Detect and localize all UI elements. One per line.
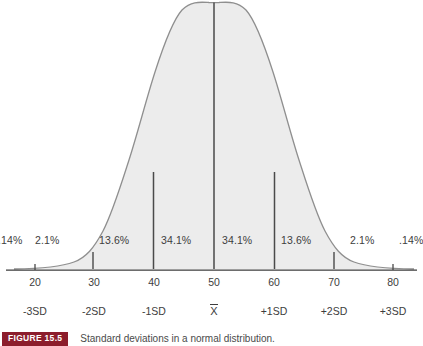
percent-label-minus3-minus2: 2.1% [35, 234, 59, 246]
x-tick-label-50: 50 [194, 276, 234, 288]
percent-label-plus1-plus2: 13.6% [281, 234, 311, 246]
x-tick-label-40: 40 [134, 276, 174, 288]
figure-caption-row: FIGURE 15.5 Standard deviations in a nor… [0, 332, 423, 343]
sd-tick-label-mean: X [191, 305, 237, 317]
percent-label-plus3-plus4: .14% [399, 234, 423, 246]
sd-tick-label-plus-2sd: +2SD [311, 305, 357, 317]
sd-tick-label-plus-1sd: +1SD [251, 305, 297, 317]
x-tick-label-80: 80 [373, 276, 413, 288]
overbar [210, 304, 217, 305]
x-tick-label-70: 70 [314, 276, 354, 288]
figure-number-badge: FIGURE 15.5 [2, 332, 68, 346]
x-tick-label-30: 30 [74, 276, 114, 288]
x-tick-label-60: 60 [254, 276, 294, 288]
percent-label-plus2-plus3: 2.1% [350, 234, 374, 246]
percent-label-mean-plus1: 34.1% [222, 234, 252, 246]
figure-caption-text: Standard deviations in a normal distribu… [80, 333, 275, 344]
x-tick-label-20: 20 [15, 276, 55, 288]
sd-tick-label-minus-3sd: -3SD [12, 305, 58, 317]
percent-label-minus1-mean: 34.1% [161, 234, 191, 246]
sd-tick-label-minus-2sd: -2SD [71, 305, 117, 317]
x-bar-symbol: X [210, 306, 217, 317]
sd-tick-label-plus-3sd: +3SD [370, 305, 416, 317]
percent-label-minus2-minus1: 13.6% [99, 234, 129, 246]
percent-label-minus3-minus4: .14% [0, 234, 22, 246]
sd-tick-label-minus-1sd: -1SD [131, 305, 177, 317]
